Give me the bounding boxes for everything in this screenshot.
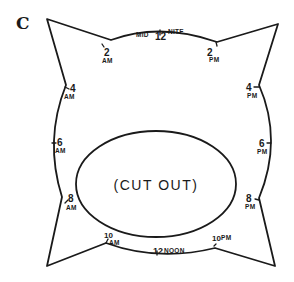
noon-suffix: NOON <box>164 247 185 254</box>
hour-mark-8pm: 8 PM <box>245 193 259 210</box>
6pm-period: PM <box>257 148 267 155</box>
8pm-period: PM <box>245 203 255 210</box>
2am-period: AM <box>102 57 113 64</box>
outer-outline <box>47 19 278 266</box>
hour-mark-2am: 2 AM <box>102 44 113 64</box>
hour-mark-6pm: 6 PM <box>257 138 271 155</box>
hour-mark-8am: 8 AM <box>65 193 77 211</box>
8am-period: AM <box>66 204 77 211</box>
tick-10pm <box>214 244 216 246</box>
midnight-suffix: NITE <box>168 28 184 35</box>
clock-template-diagram: C (CUT OUT) MID 12 NITE 2 AM 2 PM 4 <box>0 0 294 282</box>
noon-number: 12 <box>153 246 163 256</box>
4am-period: AM <box>64 93 75 100</box>
10am-period: AM <box>109 239 120 246</box>
8am-number: 8 <box>68 193 74 204</box>
hour-mark-4pm: 4 PM <box>246 82 259 99</box>
tick-4am <box>65 87 69 89</box>
4pm-period: PM <box>247 92 257 99</box>
6am-period: AM <box>55 147 66 154</box>
hour-mark-midnight: MID 12 NITE <box>136 28 184 42</box>
10pm-period: PM <box>221 234 231 241</box>
hour-mark-2pm: 2 PM <box>207 42 219 63</box>
midnight-prefix: MID <box>136 31 149 38</box>
midnight-number: 12 <box>155 31 167 42</box>
2pm-period: PM <box>209 56 219 63</box>
diagram-canvas: (CUT OUT) MID 12 NITE 2 AM 2 PM 4 AM <box>0 0 294 282</box>
hour-mark-10pm: 10 PM <box>212 234 231 246</box>
cutout-label: (CUT OUT) <box>114 177 199 193</box>
